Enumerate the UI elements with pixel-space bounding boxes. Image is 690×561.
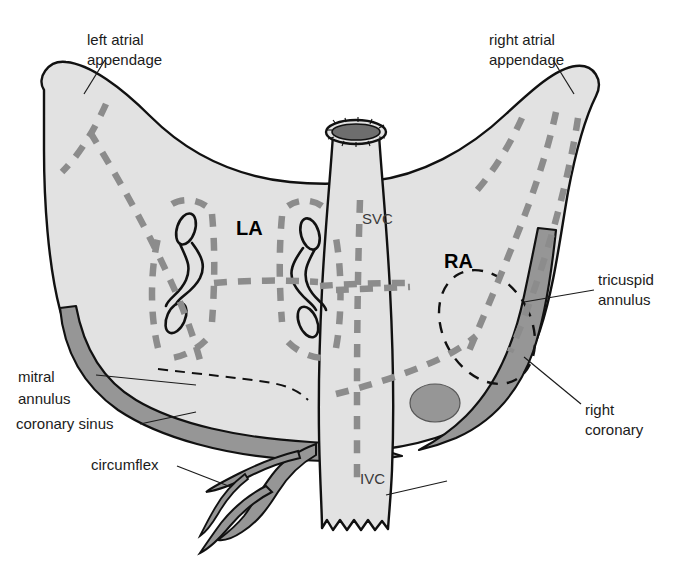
label-raa-line-2: appendage <box>489 51 564 68</box>
label-mitral-annulus: mitral annulus <box>18 368 71 407</box>
atrial-anatomy-diagram: left atrial appendage right atrial appen… <box>0 0 690 561</box>
atria-body-group <box>41 62 598 553</box>
svc-lumen <box>332 124 380 140</box>
label-right-coronary-line-2: coronary <box>585 421 644 438</box>
label-coronary-sinus: coronary sinus <box>16 415 114 432</box>
label-right-atrial-appendage: right atrial appendage <box>489 31 564 68</box>
label-mitral-line-1: mitral <box>18 368 55 385</box>
label-vessel-svc: SVC <box>362 210 393 227</box>
anatomy-figure: left atrial appendage right atrial appen… <box>0 0 690 561</box>
label-tricuspid-line-1: tricuspid <box>598 271 654 288</box>
label-vessel-ivc: IVC <box>360 470 385 487</box>
leader-circumflex <box>177 466 231 487</box>
label-circumflex: circumflex <box>91 456 159 473</box>
label-left-atrial-appendage: left atrial appendage <box>87 31 162 68</box>
label-mitral-line-2: annulus <box>18 390 71 407</box>
label-chamber-la: LA <box>236 217 263 239</box>
circumflex-vessel-group <box>200 444 316 553</box>
label-tricuspid-annulus: tricuspid annulus <box>598 271 658 308</box>
label-raa-line-1: right atrial <box>489 31 555 48</box>
leader-ivc <box>386 481 447 495</box>
label-tricuspid-line-2: annulus <box>598 291 651 308</box>
leader-right-coronary <box>524 357 581 404</box>
label-laa-line-1: left atrial <box>87 31 144 48</box>
label-laa-line-2: appendage <box>87 51 162 68</box>
coronary-sinus-ostium <box>410 384 460 422</box>
label-right-coronary-line-1: right <box>585 401 615 418</box>
label-right-coronary: right coronary <box>585 401 644 438</box>
label-chamber-ra: RA <box>444 250 473 272</box>
